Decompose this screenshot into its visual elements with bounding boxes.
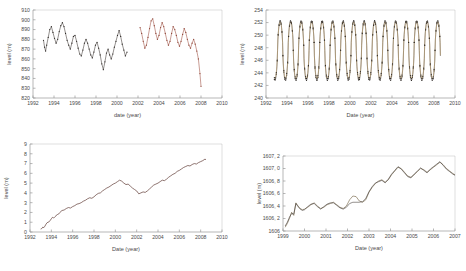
- y-tick-label: 1607, 0: [263, 165, 280, 171]
- data-point-marker: [395, 22, 396, 23]
- data-point-marker: [346, 62, 347, 63]
- data-point-marker: [45, 50, 46, 51]
- x-tick-label: 2004: [152, 234, 164, 240]
- y-tick-label: 1606, 2: [263, 215, 280, 221]
- data-point-marker: [425, 29, 426, 30]
- y-tick-label: 2: [24, 209, 27, 215]
- panel-top-left: 8208308408508608708808909009101992199419…: [0, 0, 233, 135]
- x-tick-label: 2006: [407, 100, 419, 106]
- data-point-marker: [287, 62, 288, 63]
- data-point-marker: [285, 79, 286, 80]
- y-tick-label: 870: [21, 46, 30, 52]
- data-point-marker: [171, 33, 172, 34]
- data-point-marker: [123, 49, 124, 50]
- data-point-marker: [79, 53, 80, 54]
- data-point-marker: [344, 26, 345, 27]
- data-point-marker: [325, 65, 326, 66]
- data-point-marker: [406, 22, 407, 23]
- data-point-marker: [355, 34, 356, 35]
- x-axis-title: Date (year): [355, 245, 383, 251]
- data-point-marker: [380, 78, 381, 79]
- data-point-marker: [191, 43, 192, 44]
- data-point-marker: [397, 29, 398, 30]
- x-tick-label: 2006: [174, 234, 186, 240]
- data-point-marker: [367, 71, 368, 72]
- data-point-marker: [373, 25, 374, 26]
- data-point-marker: [316, 78, 317, 79]
- data-point-marker: [395, 20, 396, 21]
- data-point-marker: [341, 30, 342, 31]
- x-axis-title: Date (year): [347, 112, 375, 118]
- data-point-marker: [107, 48, 108, 49]
- data-point-marker: [82, 49, 83, 50]
- data-point-marker: [398, 45, 399, 46]
- data-point-marker: [423, 68, 424, 69]
- data-point-marker: [365, 33, 366, 34]
- data-point-marker: [416, 22, 417, 23]
- y-tick-label: 6: [24, 170, 27, 176]
- data-point-marker: [196, 50, 197, 51]
- data-point-marker: [329, 68, 330, 69]
- data-point-marker: [87, 43, 88, 44]
- data-point-marker: [327, 80, 328, 81]
- x-tick-label: 1992: [27, 100, 39, 106]
- data-point-marker: [359, 77, 360, 78]
- data-point-marker: [388, 69, 389, 70]
- data-point-marker: [44, 47, 45, 48]
- data-point-marker: [417, 27, 418, 28]
- data-point-marker: [169, 41, 170, 42]
- x-tick-label: 2006: [428, 233, 440, 239]
- data-point-marker: [276, 72, 277, 73]
- data-point-marker: [81, 55, 82, 56]
- data-point-marker: [199, 73, 200, 74]
- data-point-marker: [154, 25, 155, 26]
- data-point-marker: [393, 38, 394, 39]
- data-point-marker: [394, 26, 395, 27]
- data-point-marker: [338, 76, 339, 77]
- data-point-marker: [139, 27, 140, 28]
- x-tick-label: 1994: [46, 234, 58, 240]
- data-point-marker: [162, 22, 163, 23]
- chart-bottom-left: 0123456789199219941996199820002002200420…: [0, 136, 233, 271]
- data-point-marker: [279, 25, 280, 26]
- data-point-marker: [297, 63, 298, 64]
- data-point-marker: [343, 20, 344, 21]
- data-point-marker: [149, 28, 150, 29]
- x-tick-label: 1999: [277, 233, 289, 239]
- y-axis-title: level (m): [6, 43, 12, 65]
- data-point-marker: [387, 50, 388, 51]
- data-point-marker: [384, 21, 385, 22]
- y-tick-label: 830: [21, 85, 30, 91]
- panel-bottom-left: 0123456789199219941996199820002002200420…: [0, 136, 233, 271]
- x-tick-label: 2005: [406, 233, 418, 239]
- series-line: [274, 22, 440, 79]
- data-point-marker: [84, 43, 85, 44]
- data-point-marker: [304, 68, 305, 69]
- x-tick-label: 2002: [365, 100, 377, 106]
- x-tick-label: 1996: [302, 100, 314, 106]
- data-point-marker: [166, 40, 167, 41]
- data-point-marker: [382, 62, 383, 63]
- data-point-marker: [180, 41, 181, 42]
- data-point-marker: [59, 31, 60, 32]
- data-point-marker: [157, 39, 158, 40]
- data-point-marker: [371, 60, 372, 61]
- data-point-marker: [364, 20, 365, 21]
- data-point-marker: [427, 20, 428, 21]
- data-point-marker: [85, 39, 86, 40]
- data-point-marker: [281, 32, 282, 33]
- data-point-marker: [51, 26, 52, 27]
- x-tick-label: 2004: [385, 233, 397, 239]
- data-point-marker: [435, 30, 436, 31]
- x-tick-label: 1994: [48, 100, 60, 106]
- data-point-marker: [414, 42, 415, 43]
- data-point-marker: [420, 74, 421, 75]
- data-point-marker: [386, 30, 387, 31]
- data-point-marker: [330, 29, 331, 30]
- y-tick-label: 880: [21, 36, 30, 42]
- data-point-marker: [289, 26, 290, 27]
- data-point-marker: [163, 26, 164, 27]
- data-point-marker: [55, 43, 56, 44]
- data-point-marker: [290, 21, 291, 22]
- x-tick-label: 1994: [281, 100, 293, 106]
